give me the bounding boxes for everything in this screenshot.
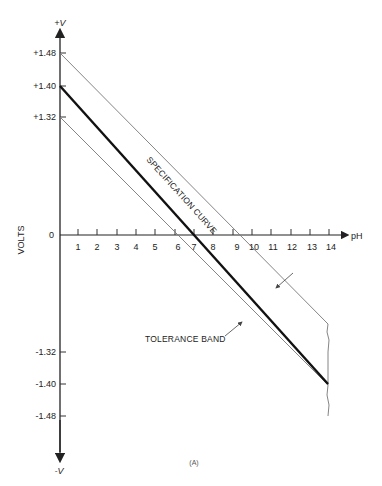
tolerance-arrow-lower	[225, 322, 242, 336]
y-tick-label: +1.48	[33, 48, 56, 58]
origin-label: 0	[49, 230, 54, 240]
specification-curve-label: SPECIFICATION CURVE	[145, 155, 220, 236]
x-tick-label: 13	[307, 242, 317, 252]
y-tick-label: -1.40	[35, 379, 56, 389]
x-tick-label: 7	[191, 242, 196, 252]
y-tick-label: -1.32	[35, 347, 56, 357]
ph-volts-chart: +1.48 +1.40 +1.32 -1.32 -1.40 -1.48 0 1 …	[0, 0, 382, 486]
y-tick-label: -1.48	[35, 411, 56, 421]
x-tick-label: 4	[133, 242, 138, 252]
y-axis-label: VOLTS	[16, 226, 26, 255]
x-tick-label: 12	[287, 242, 297, 252]
x-tick-label: 11	[268, 242, 277, 252]
tolerance-band-label: TOLERANCE BAND	[145, 334, 226, 344]
y-tick-label: +1.32	[33, 112, 56, 122]
x-tick-label: 2	[94, 242, 99, 252]
x-ticks	[78, 229, 329, 235]
x-tick-label: 5	[152, 242, 157, 252]
x-tick-label: 6	[175, 242, 180, 252]
x-tick-label: 3	[114, 242, 119, 252]
y-top-label: +V	[54, 18, 66, 28]
panel-label: (A)	[189, 459, 198, 467]
x-tick-label: 14	[326, 242, 336, 252]
x-axis-label: pH	[351, 231, 363, 241]
y-bottom-label: -V	[55, 466, 65, 476]
x-tick-label: 1	[75, 242, 80, 252]
x-tick-label: 9	[234, 242, 239, 252]
x-tick-label: 10	[249, 242, 259, 252]
y-tick-label: +1.40	[33, 81, 56, 91]
tolerance-band-lower	[60, 117, 329, 416]
x-tick-label: 8	[210, 242, 215, 252]
